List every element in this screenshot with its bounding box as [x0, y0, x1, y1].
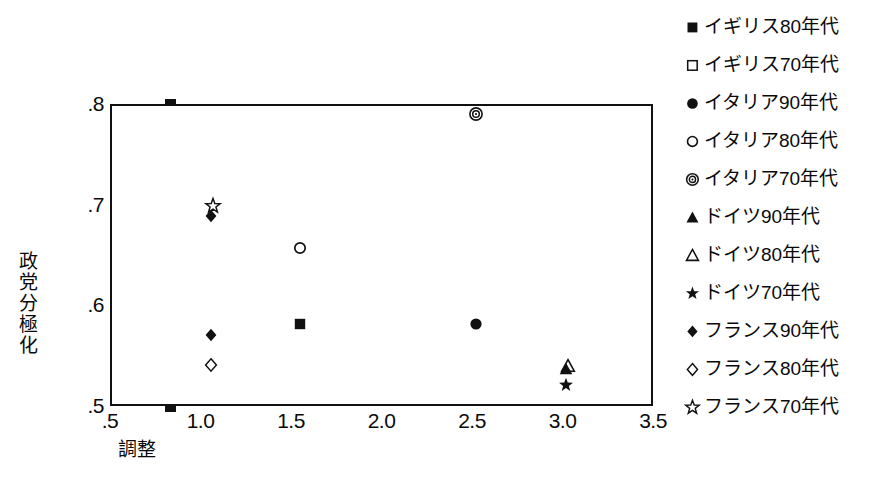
y-tick-label: .6	[87, 294, 104, 315]
legend: イギリス80年代イギリス70年代イタリア90年代イタリア80年代イタリア70年代…	[680, 8, 879, 426]
x-tick-label: 1.5	[261, 410, 321, 431]
x-tick-label: 2.5	[442, 410, 502, 431]
scatter-plot-figure: 政党分極化 .5.6.7.8 .51.01.52.02.53.03.5 調整 イ…	[0, 0, 879, 478]
filled-star-icon	[680, 282, 704, 304]
x-tick-label: 1.0	[171, 410, 231, 431]
legend-item-label: イタリア70年代	[704, 168, 838, 190]
x-axis-title: 調整	[118, 440, 156, 460]
legend-item[interactable]: イギリス80年代	[680, 8, 879, 46]
legend-item-label: イギリス80年代	[704, 16, 839, 38]
open-diamond-icon	[680, 358, 704, 380]
y-tick-label: .7	[87, 194, 104, 215]
legend-item-label: フランス70年代	[704, 396, 839, 418]
x-tick-label: 3.5	[623, 410, 683, 431]
y-axis-title: 政党分極化	[16, 251, 40, 356]
open-triangle-icon	[680, 244, 704, 266]
legend-item-label: フランス80年代	[704, 358, 839, 380]
open-square-icon	[680, 54, 704, 76]
legend-item[interactable]: イタリア70年代	[680, 160, 879, 198]
legend-item[interactable]: イタリア80年代	[680, 122, 879, 160]
plot-area	[110, 104, 653, 406]
x-tick-label: 3.0	[533, 410, 593, 431]
legend-item-label: ドイツ70年代	[704, 282, 820, 304]
y-tick-label: .8	[87, 93, 104, 114]
legend-item-label: フランス90年代	[704, 320, 839, 342]
legend-item[interactable]: フランス90年代	[680, 312, 879, 350]
filled-square-icon	[680, 16, 704, 38]
legend-item[interactable]: ドイツ90年代	[680, 198, 879, 236]
filled-diamond-icon	[680, 320, 704, 342]
legend-item[interactable]: イギリス70年代	[680, 46, 879, 84]
x-tick-label: .5	[80, 410, 140, 431]
legend-item[interactable]: イタリア90年代	[680, 84, 879, 122]
legend-item[interactable]: ドイツ70年代	[680, 274, 879, 312]
legend-item-label: ドイツ90年代	[704, 206, 820, 228]
open-star-icon	[680, 396, 704, 418]
legend-item[interactable]: フランス80年代	[680, 350, 879, 388]
legend-item-label: イタリア90年代	[704, 92, 838, 114]
filled-circle-icon	[680, 92, 704, 114]
y-axis-ticks: .5.6.7.8	[60, 0, 104, 478]
legend-item-label: イギリス70年代	[704, 54, 839, 76]
legend-item-label: イタリア80年代	[704, 130, 838, 152]
legend-item-label: ドイツ80年代	[704, 244, 820, 266]
legend-item[interactable]: ドイツ80年代	[680, 236, 879, 274]
legend-item[interactable]: フランス70年代	[680, 388, 879, 426]
filled-triangle-icon	[680, 206, 704, 228]
x-tick-label: 2.0	[352, 410, 412, 431]
open-circle-icon	[680, 130, 704, 152]
bullseye-circle-icon	[680, 168, 704, 190]
